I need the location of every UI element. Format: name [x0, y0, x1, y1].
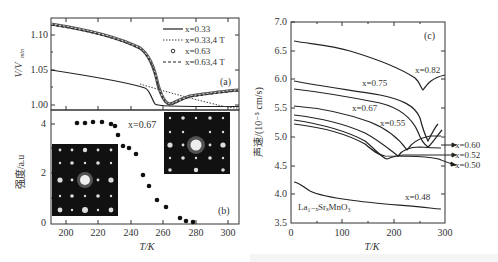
panel-label-b: (b) — [218, 205, 230, 217]
curve-label-075: x=0.75 — [362, 78, 388, 88]
curve-label-050: x=0.50 — [455, 160, 481, 170]
xtick-c-3: 300 — [438, 227, 453, 238]
legend-item-063-4t: x=0.63,4 T — [185, 57, 225, 67]
xtick-b-0: 200 — [59, 227, 74, 238]
xtick-c-0: 0 — [289, 227, 294, 238]
curve-label-048: x=0.48 — [405, 192, 431, 202]
panel-c: 7.0 6.5 6.0 5.5 5.0 4.5 4.0 3.5 声速/(10⁻⁵… — [252, 16, 481, 252]
ytick-b-0: 4 — [41, 118, 46, 129]
curve-label-052: x=0.52 — [455, 150, 480, 160]
ytick-c-5: 4.5 — [275, 160, 288, 171]
curve-label-055: x=0.55 — [380, 118, 406, 128]
compound-label: La₁₋ₓSrₓMnO₃ — [298, 202, 351, 212]
panel-label-c: (c) — [424, 30, 435, 42]
ytick-a-1: 1.05 — [31, 64, 49, 75]
legend-item-033-4t: x=0.33,4 T — [185, 35, 225, 45]
caption-remnant — [250, 254, 498, 262]
ytick-c-1: 6.5 — [275, 45, 288, 56]
panel-label-a: (a) — [220, 76, 231, 88]
ytick-c-2: 6.0 — [275, 73, 288, 84]
legend-item-033: x=0.33 — [185, 24, 211, 34]
xtick-b-1: 220 — [91, 227, 106, 238]
label-arrows — [441, 143, 456, 166]
ylabel-b: 强度/a.u — [14, 155, 26, 190]
ytick-c-4: 5.0 — [275, 131, 288, 142]
legend-a: x=0.33 x=0.33,4 T x=0.63 x=0.63,4 T — [163, 24, 225, 67]
xtick-c-1: 100 — [335, 227, 350, 238]
svg-text:min: min — [19, 49, 25, 58]
annotation-x067: x=0.67 — [128, 119, 156, 130]
panel-b: 4 2 0 强度/a.u 200 220 240 260 280 300 T/K — [14, 110, 239, 252]
curve-label-067: x=0.67 — [352, 103, 378, 113]
ytick-b-2: 0 — [41, 217, 46, 228]
ylabel-c: 声速/(10⁻⁵ cm/s) — [252, 87, 265, 157]
ytick-a-0: 1.10 — [31, 29, 49, 40]
ytick-c-7: 3.5 — [275, 217, 288, 228]
panel-a: 1.10 1.05 1.00 V/V min x=0.33 x=0.33,4 T… — [13, 18, 239, 110]
ytick-c-0: 7.0 — [275, 16, 288, 27]
xtick-b-4: 280 — [189, 227, 204, 238]
curve-label-060: x=0.60 — [455, 140, 481, 150]
figure: 1.10 1.05 1.00 V/V min x=0.33 x=0.33,4 T… — [0, 0, 498, 262]
curve-label-082: x=0.82 — [415, 65, 440, 75]
xtick-b-5: 300 — [221, 227, 236, 238]
xlabel-b: T/K — [139, 241, 155, 252]
xtick-b-3: 260 — [156, 227, 171, 238]
legend-item-063: x=0.63 — [185, 46, 211, 56]
svg-text:V/V: V/V — [13, 61, 24, 78]
ytick-b-1: 2 — [41, 167, 46, 178]
ylabel-a: V/V min — [13, 49, 25, 78]
xtick-c-2: 200 — [387, 227, 402, 238]
xtick-b-2: 240 — [124, 227, 139, 238]
diffraction-inset-left — [52, 144, 118, 216]
diffraction-inset-right — [164, 112, 230, 174]
ytick-a-2: 1.00 — [31, 99, 49, 110]
ytick-c-6: 4.0 — [275, 188, 288, 199]
xlabel-c: T/K — [364, 241, 380, 252]
ytick-c-3: 5.5 — [275, 102, 288, 113]
